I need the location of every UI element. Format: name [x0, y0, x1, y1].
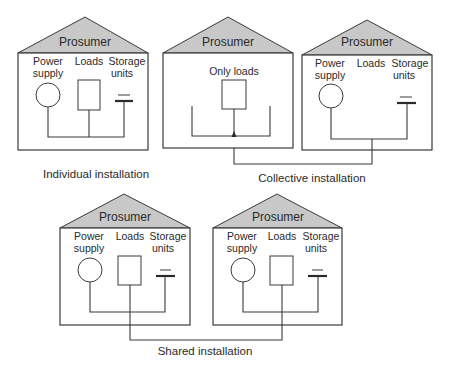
house-title: Prosumer — [252, 210, 304, 224]
installation-types-diagram: Prosumer Power supply Loads Storage unit… — [0, 0, 449, 365]
loads-label: Loads — [116, 230, 145, 242]
loads-label: Loads — [357, 57, 386, 69]
loads-label: Loads — [268, 230, 297, 242]
load-icon — [118, 256, 141, 285]
loads-label: Loads — [75, 55, 104, 67]
house-title: Prosumer — [202, 35, 254, 49]
storage-label-2: units — [393, 69, 415, 81]
power-supply-label: Power — [74, 230, 104, 242]
storage-label: Storage — [303, 230, 340, 242]
storage-label-2: units — [152, 242, 174, 254]
power-supply-label: Power — [33, 55, 63, 67]
storage-label: Storage — [150, 230, 187, 242]
storage-label: Storage — [392, 57, 429, 69]
house-shared-left: Prosumer Power supply Loads Storage unit… — [60, 194, 190, 325]
storage-label: Storage — [109, 55, 146, 67]
load-icon — [270, 256, 293, 285]
caption-collective: Collective installation — [258, 172, 365, 184]
power-supply-label-2: supply — [33, 67, 64, 79]
power-supply-icon — [231, 258, 255, 282]
house-collective-left: Prosumer Only loads — [163, 17, 293, 148]
load-icon — [222, 80, 246, 109]
caption-individual: Individual installation — [43, 168, 149, 180]
power-supply-label: Power — [315, 57, 345, 69]
power-supply-label-2: supply — [74, 242, 105, 254]
power-supply-icon — [78, 258, 102, 282]
caption-shared: Shared installation — [158, 345, 253, 357]
storage-label-2: units — [111, 67, 133, 79]
storage-label-2: units — [305, 242, 327, 254]
house-collective-right: Prosumer Power supply Loads Storage unit… — [302, 20, 432, 150]
power-supply-icon — [319, 84, 343, 108]
power-supply-label-2: supply — [227, 242, 258, 254]
power-supply-label: Power — [227, 230, 257, 242]
house-title: Prosumer — [59, 35, 111, 49]
only-loads-label: Only loads — [209, 65, 259, 77]
power-supply-label-2: supply — [315, 69, 346, 81]
house-title: Prosumer — [341, 35, 393, 49]
house-individual: Prosumer Power supply Loads Storage unit… — [18, 17, 148, 150]
load-icon — [78, 80, 100, 110]
house-title: Prosumer — [99, 210, 151, 224]
power-supply-icon — [36, 83, 60, 107]
house-shared-right: Prosumer Power supply Loads Storage unit… — [213, 194, 342, 325]
